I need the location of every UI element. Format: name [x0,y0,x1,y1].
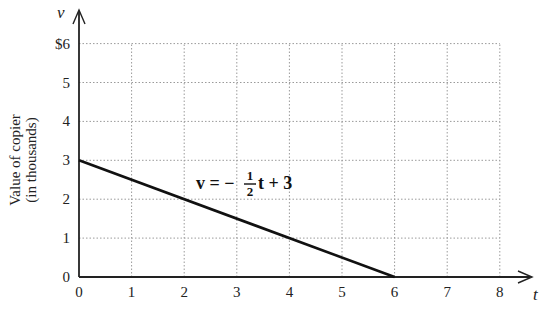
equation-denominator: 2 [247,184,254,199]
equation-numerator: 1 [247,168,254,183]
x-tick-label: 7 [443,284,451,300]
x-tick-label: 6 [391,284,399,300]
x-tick-label: 8 [496,284,504,300]
line-chart: 012345678 012345$6 v t Value of copier (… [0,0,544,314]
y-tick-label: $6 [55,36,71,52]
equation-rhs: t + 3 [258,173,292,193]
y-tick-label: 2 [63,191,71,207]
y-tick-label: 0 [63,269,71,285]
x-tick-label: 4 [286,284,294,300]
y-axis-label-line2: (in thousands) [23,117,40,202]
y-axis-label-line1: Value of copier [7,114,23,206]
grid-lines [79,44,500,277]
equation-annotation: v = − 1 2 t + 3 [196,168,292,199]
y-axis-label: Value of copier (in thousands) [7,114,40,206]
y-tick-labels: 012345$6 [55,36,71,285]
equation-lhs: v = − [196,173,235,193]
x-tick-label: 5 [338,284,346,300]
x-tick-label: 3 [233,284,241,300]
x-tick-label: 1 [128,284,136,300]
y-tick-label: 3 [63,152,71,168]
y-tick-label: 4 [63,113,71,129]
x-axis-variable: t [533,285,539,304]
y-tick-label: 1 [63,230,71,246]
y-tick-label: 5 [63,75,71,91]
x-tick-label: 2 [180,284,188,300]
x-tick-labels: 012345678 [75,284,503,300]
y-axis-variable: v [57,3,65,22]
x-tick-label: 0 [75,284,83,300]
